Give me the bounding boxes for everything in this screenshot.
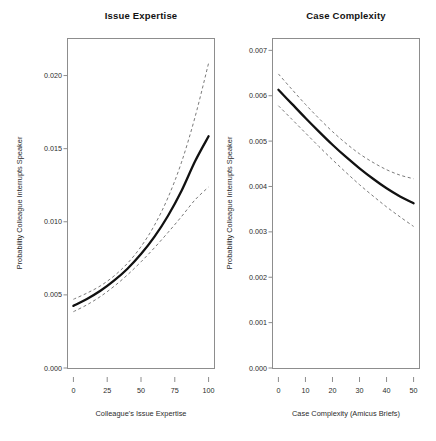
x-axis-label-left: Colleague's Issue Expertise (96, 409, 187, 418)
two-panel-figure: Issue Expertise 0.0000.0050.0100.0150.02… (0, 0, 436, 441)
y-tick-label: 0.000 (44, 364, 62, 373)
ci-lower-line-right (278, 106, 413, 227)
y-tick-label: 0.002 (249, 273, 267, 282)
panel-case-complexity: Case Complexity 0.0000.0010.0020.0030.00… (225, 10, 420, 418)
x-tick-label: 30 (356, 386, 364, 395)
y-tick-label: 0.007 (249, 46, 267, 55)
ci-lower-line-left (73, 187, 208, 312)
y-tick-label: 0.004 (249, 182, 267, 191)
y-tick-label: 0.003 (249, 227, 267, 236)
y-tick-label: 0.010 (44, 217, 62, 226)
x-tick-label: 50 (410, 386, 418, 395)
fit-line-left (73, 136, 208, 306)
x-tick-label: 40 (383, 386, 391, 395)
y-tick-label: 0.000 (249, 364, 267, 373)
y-tick-label: 0.006 (249, 91, 267, 100)
panel-title-left: Issue Expertise (105, 10, 178, 21)
y-tick-label: 0.001 (249, 318, 267, 327)
x-axis-left: 0255075100 Colleague's Issue Expertise (71, 377, 214, 418)
y-tick-label: 0.005 (249, 137, 267, 146)
x-tick-label: 0 (276, 386, 280, 395)
plot-frame-right (273, 39, 420, 369)
x-tick-label: 20 (328, 386, 336, 395)
x-tick-label: 50 (137, 386, 145, 395)
panel-issue-expertise: Issue Expertise 0.0000.0050.0100.0150.02… (15, 10, 215, 418)
y-tick-label: 0.020 (44, 71, 62, 80)
x-axis-right: 01020304050 Case Complexity (Amicus Brie… (276, 377, 417, 418)
x-axis-label-right: Case Complexity (Amicus Briefs) (292, 409, 400, 418)
y-axis-label-left: Probability Colleague Interrupts Speaker (15, 136, 24, 269)
x-tick-label: 25 (103, 386, 111, 395)
x-tick-label: 100 (203, 386, 215, 395)
panel-title-right: Case Complexity (306, 10, 386, 21)
fit-line-right (278, 90, 413, 203)
ci-upper-line-left (73, 63, 208, 299)
x-tick-label: 75 (171, 386, 179, 395)
y-axis-label-right: Probability Colleague Interrupts Speaker (225, 136, 234, 269)
x-tick-label: 0 (71, 386, 75, 395)
plot-frame-left (68, 39, 215, 369)
y-axis-left: 0.0000.0050.0100.0150.020 Probability Co… (15, 71, 68, 372)
x-tick-label: 10 (301, 386, 309, 395)
y-axis-right: 0.0000.0010.0020.0030.0040.0050.0060.007… (225, 46, 273, 373)
y-tick-label: 0.015 (44, 144, 62, 153)
y-tick-label: 0.005 (44, 290, 62, 299)
